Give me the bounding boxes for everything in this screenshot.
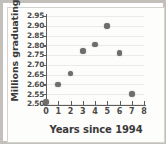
- y-axis-tick-label: 2.55: [20, 91, 44, 98]
- y-axis-tick-mark: [43, 75, 48, 76]
- y-axis-tick-mark: [43, 36, 48, 37]
- x-axis-title: Years since 1994: [36, 124, 156, 135]
- y-axis-tick-label: 2.95: [20, 12, 44, 19]
- y-axis-tick-mark: [43, 16, 48, 17]
- y-axis-tick-label: 2.65: [20, 71, 44, 78]
- x-axis-tick-mark: [95, 101, 96, 105]
- y-axis-tick-labels: 2.502.552.602.652.702.752.802.852.902.95: [20, 0, 44, 144]
- gridline: [46, 36, 144, 37]
- y-axis-tick-mark: [43, 45, 48, 46]
- x-axis-tick-mark: [144, 101, 145, 105]
- y-axis-tick-mark: [43, 84, 48, 85]
- scatter-plot: Millions graduating 2.502.552.602.652.70…: [0, 0, 166, 144]
- gridline: [46, 65, 144, 66]
- data-point: [80, 48, 86, 54]
- y-axis-tick-mark: [43, 55, 48, 56]
- x-axis-tick-mark: [71, 101, 72, 105]
- y-axis-tick-label: 2.50: [20, 100, 44, 107]
- y-axis-tick-label: 2.60: [20, 81, 44, 88]
- x-axis-tick-mark: [120, 101, 121, 105]
- data-point: [104, 23, 110, 29]
- y-axis-tick-label: 2.85: [20, 32, 44, 39]
- chart-screenshot: Millions graduating 2.502.552.602.652.70…: [0, 0, 166, 144]
- x-axis-tick-mark: [107, 101, 108, 105]
- x-axis-tick-labels: 012345678: [0, 108, 166, 120]
- y-axis-line: [46, 14, 47, 106]
- gridline: [46, 75, 144, 76]
- data-point: [129, 91, 135, 97]
- gridline: [46, 55, 144, 56]
- x-axis-tick-mark: [83, 101, 84, 105]
- x-axis-tick-mark: [58, 101, 59, 105]
- y-axis-tick-label: 2.70: [20, 61, 44, 68]
- y-axis-tick-label: 2.80: [20, 42, 44, 49]
- y-axis-tick-label: 2.90: [20, 22, 44, 29]
- y-axis-tick-mark: [43, 94, 48, 95]
- x-axis-tick-mark: [132, 101, 133, 105]
- x-axis-tick-label: 8: [137, 108, 151, 116]
- y-axis-title: Millions graduating: [9, 6, 20, 102]
- data-point: [92, 42, 98, 48]
- y-axis-tick-label: 2.75: [20, 51, 44, 58]
- y-axis-tick-mark: [43, 65, 48, 66]
- gridline: [46, 16, 144, 17]
- y-axis-tick-mark: [43, 26, 48, 27]
- data-point: [43, 99, 49, 105]
- gridline: [46, 26, 144, 27]
